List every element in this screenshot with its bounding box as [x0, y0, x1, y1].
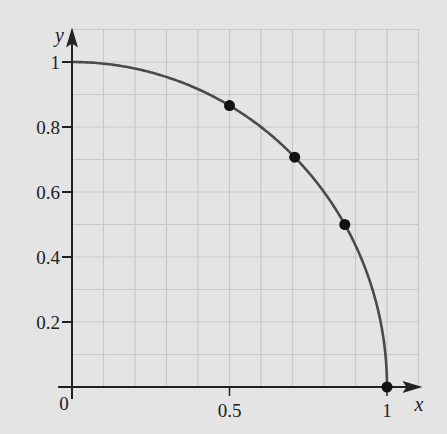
axes	[58, 28, 423, 400]
data-point	[224, 100, 235, 111]
x-tick-label: 0.5	[218, 400, 242, 421]
data-point	[339, 219, 350, 230]
y-tick-label: 1	[51, 52, 61, 73]
y-tick-label: 0.6	[36, 182, 60, 203]
y-tick-label: 0.4	[36, 247, 60, 268]
x-axis-label: x	[414, 393, 424, 415]
data-points	[224, 100, 393, 392]
grid	[72, 30, 419, 388]
y-tick-label: 0.8	[36, 117, 60, 138]
chart: 0.20.40.60.8100.51xy	[0, 0, 447, 434]
x-tick-label: 0	[59, 393, 69, 414]
y-tick-label: 0.2	[36, 312, 60, 333]
data-point	[382, 382, 393, 393]
y-axis-label: y	[53, 24, 64, 47]
data-point	[289, 152, 300, 163]
x-tick-label: 1	[382, 400, 392, 421]
